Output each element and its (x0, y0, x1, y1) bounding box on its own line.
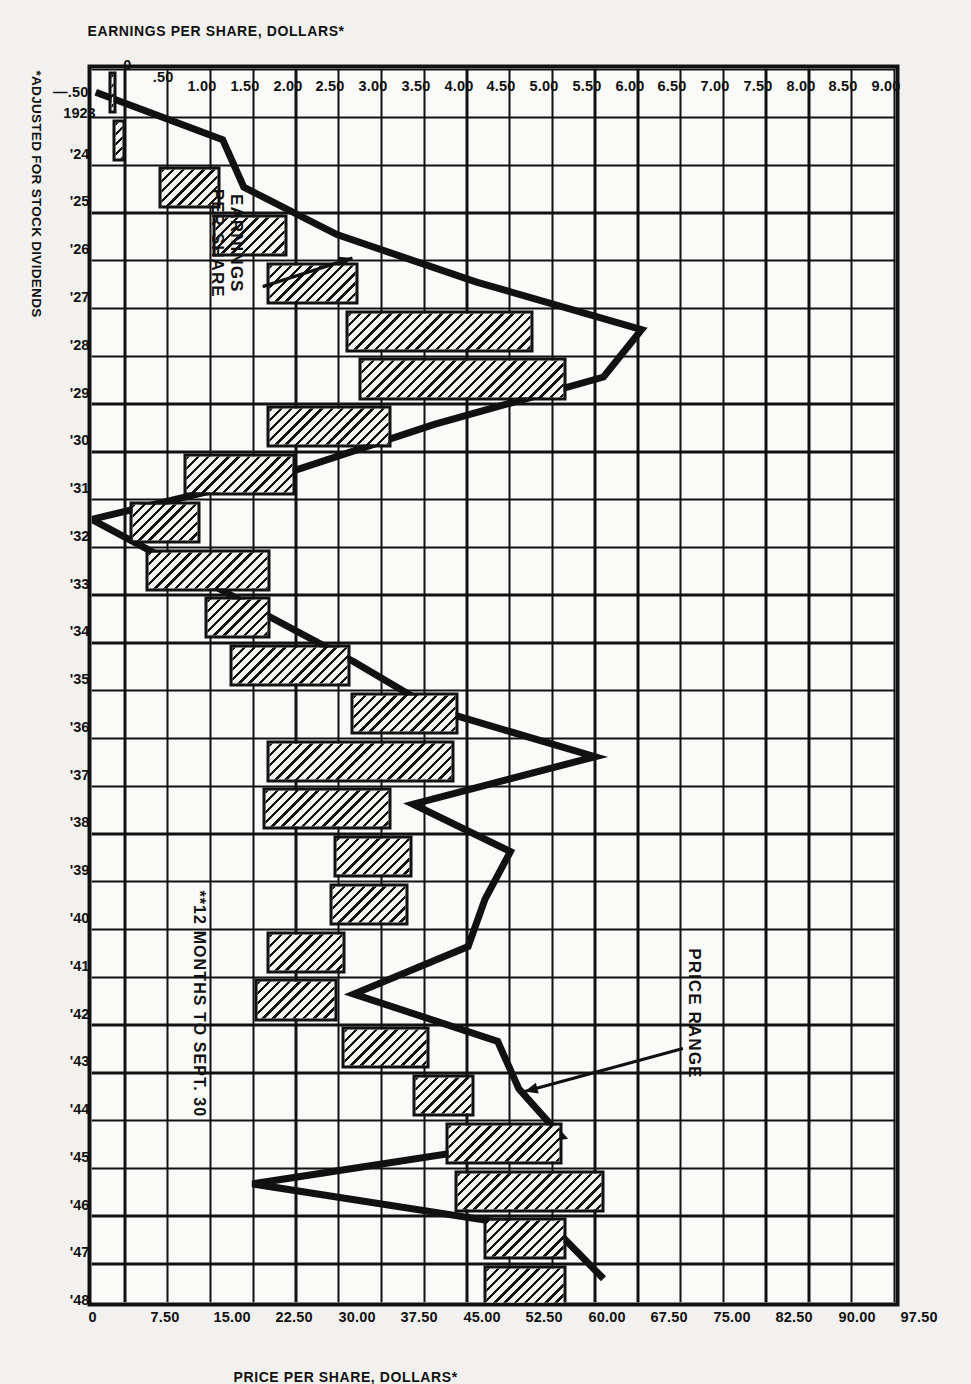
year-axis-label: '29 (69, 384, 89, 400)
year-axis-label: '46 (69, 1196, 89, 1212)
right-axis-tick-label: 52.50 (525, 1308, 562, 1324)
left-axis-tick-label: 0 (122, 56, 130, 72)
left-axis-title: EARNINGS PER SHARE, DOLLARS* (87, 22, 344, 38)
year-axis-label: '34 (69, 623, 89, 639)
grid-line-horizontal (764, 68, 766, 1302)
left-axis-tick-label: 4.00 (444, 77, 473, 93)
year-axis-label: '44 (69, 1101, 89, 1117)
year-axis-label: '24 (69, 145, 89, 161)
right-axis-tick-label: 67.50 (650, 1308, 687, 1324)
grid-line-horizontal (465, 68, 467, 1302)
footnote-stock-dividends: *ADJUSTED FOR STOCK DIVIDENDS (28, 70, 43, 317)
year-axis-label: '32 (69, 528, 89, 544)
price-range-bar (112, 119, 124, 161)
right-axis-tick-label: 82.50 (775, 1308, 812, 1324)
price-range-bar (358, 357, 566, 399)
grid-line-horizontal (551, 68, 553, 1302)
year-axis-label: 1923 (63, 104, 95, 120)
year-axis-label: '43 (69, 1053, 89, 1069)
right-axis-tick-label: 15.00 (213, 1308, 250, 1324)
grid-line-horizontal (807, 68, 809, 1302)
price-range-bar (204, 596, 271, 638)
earnings-annotation-line1: EARNINGS (226, 188, 246, 297)
grid-line-horizontal (166, 68, 168, 1302)
price-range-bar (329, 883, 408, 925)
grid-line-horizontal (593, 68, 595, 1302)
price-range-bar (262, 787, 391, 829)
right-axis-tick-label: 97.50 (900, 1308, 937, 1324)
left-axis-tick-label: 8.50 (828, 77, 857, 93)
year-axis-label: '35 (69, 671, 89, 687)
left-axis-tick-label: 2.00 (273, 77, 302, 93)
grid-line-horizontal (636, 68, 638, 1302)
right-axis-tick-label: 7.50 (150, 1308, 179, 1324)
year-axis-label: '26 (69, 241, 89, 257)
year-axis-label: '39 (69, 862, 89, 878)
year-axis-label: '37 (69, 766, 89, 782)
left-axis-tick-label: 5.50 (572, 77, 601, 93)
price-range-bar (345, 310, 532, 352)
price-range-annotation: PRICE RANGE (684, 948, 704, 1078)
left-axis-tick-label: 1.00 (187, 77, 216, 93)
price-range-bar (183, 453, 295, 495)
price-range-bar (266, 262, 358, 304)
earnings-annotation: EARNINGS PER SHARE (206, 188, 245, 297)
price-range-bar (108, 71, 116, 113)
grid-line-horizontal (380, 68, 382, 1302)
year-axis-label: '45 (69, 1149, 89, 1165)
left-axis-tick-label: 3.50 (401, 77, 430, 93)
price-range-bar (350, 692, 458, 734)
price-range-bar (333, 835, 412, 877)
left-axis-tick-label: 5.00 (529, 77, 558, 93)
grid-line-horizontal (123, 68, 125, 1302)
price-range-bar (483, 1217, 566, 1259)
grid-line-horizontal (722, 68, 724, 1302)
right-axis-tick-label: 90.00 (838, 1308, 875, 1324)
grid-line-horizontal (423, 68, 425, 1302)
price-range-bar (454, 1170, 604, 1212)
grid-line-horizontal (850, 68, 852, 1302)
right-axis-tick-label: 22.50 (275, 1308, 312, 1324)
price-range-bar (412, 1074, 474, 1116)
year-axis-label: '28 (69, 337, 89, 353)
year-axis-label: '27 (69, 289, 89, 305)
left-axis-tick-label: 4.50 (486, 77, 515, 93)
right-axis-tick-label: 30.00 (338, 1308, 375, 1324)
left-axis-tick-label: —.50 (53, 83, 88, 99)
year-axis-label: '36 (69, 719, 89, 735)
year-axis-label: '47 (69, 1244, 89, 1260)
earnings-annotation-line2: PER SHARE (206, 188, 226, 297)
right-axis-title: PRICE PER SHARE, DOLLARS* (233, 1368, 457, 1384)
right-axis-tick-label: 75.00 (713, 1308, 750, 1324)
grid-line-horizontal (679, 68, 681, 1302)
year-axis-label: '31 (69, 480, 89, 496)
left-axis-tick-label: 9.00 (871, 77, 900, 93)
grid-line-horizontal (893, 68, 895, 1302)
left-axis-tick-label: 2.50 (315, 77, 344, 93)
year-axis-label: '33 (69, 575, 89, 591)
price-range-bar (483, 1265, 566, 1306)
left-axis-tick-label: 1.50 (230, 77, 259, 93)
left-axis-tick-label: .50 (153, 69, 174, 85)
year-axis-label: '25 (69, 193, 89, 209)
right-axis-tick-label: 0 (88, 1308, 96, 1324)
price-range-bar (341, 1026, 428, 1068)
price-range-bar (266, 405, 391, 447)
year-axis-label: '40 (69, 910, 89, 926)
price-range-bar (229, 644, 350, 686)
year-axis-label: '41 (69, 958, 89, 974)
price-range-bar (129, 501, 200, 543)
left-axis-tick-label: 6.50 (657, 77, 686, 93)
twelve-months-note: **12 MONTHS TO SEPT. 30 (189, 890, 207, 1117)
price-range-bar (266, 740, 453, 782)
year-axis-label: '30 (69, 432, 89, 448)
right-axis-tick-label: 37.50 (400, 1308, 437, 1324)
price-range-bar (445, 1122, 562, 1164)
left-axis-tick-label: 7.50 (743, 77, 772, 93)
year-axis-label: '48 (69, 1292, 89, 1308)
earnings-polyline (91, 92, 641, 1279)
grid-line-horizontal (508, 68, 510, 1302)
